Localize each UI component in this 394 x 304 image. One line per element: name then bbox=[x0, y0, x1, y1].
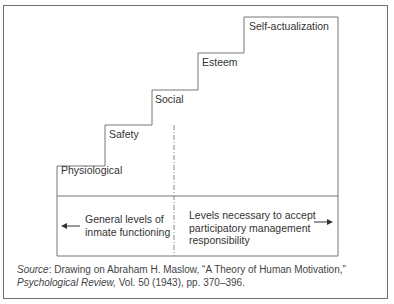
left-caption: General levels of inmate functioning bbox=[85, 213, 170, 238]
left-caption-line: inmate functioning bbox=[85, 226, 170, 239]
source-citation: Source: Drawing on Abraham H. Maslow, “A… bbox=[17, 263, 377, 289]
step-label-physiological: Physiological bbox=[61, 164, 122, 176]
step-label-social: Social bbox=[155, 93, 184, 105]
step-label-esteem: Esteem bbox=[202, 56, 238, 68]
step-label-safety: Safety bbox=[109, 128, 139, 140]
arrow-right-icon bbox=[314, 219, 333, 225]
right-caption-line: participatory management bbox=[189, 222, 316, 235]
right-caption: Levels necessary to accept participatory… bbox=[189, 209, 316, 247]
step-label-self-actualization: Self-actualization bbox=[249, 20, 329, 32]
left-caption-line: General levels of bbox=[85, 213, 170, 226]
source-prefix: Source bbox=[17, 264, 49, 275]
source-text: : Drawing on Abraham H. Maslow, “A Theor… bbox=[49, 264, 346, 275]
right-caption-line: responsibility bbox=[189, 234, 316, 247]
source-journal: Psychological Review, bbox=[17, 277, 116, 288]
right-caption-line: Levels necessary to accept bbox=[189, 209, 316, 222]
staircase-diagram bbox=[0, 0, 394, 304]
arrow-left-icon bbox=[61, 223, 80, 229]
source-details: Vol. 50 (1943), pp. 370–396. bbox=[116, 277, 245, 288]
